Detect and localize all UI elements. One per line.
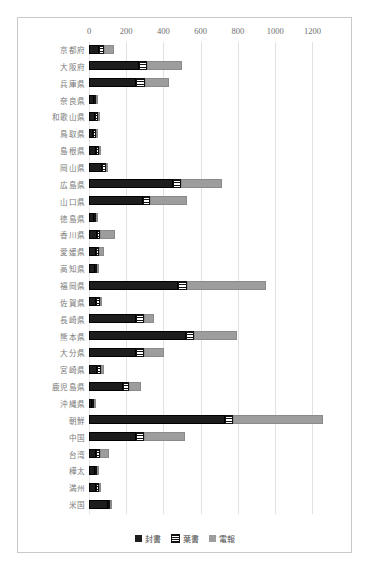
- stacked-bar[interactable]: [89, 264, 99, 273]
- bar-segment-封書[interactable]: [89, 415, 225, 424]
- bar-segment-封書[interactable]: [89, 449, 96, 458]
- bar-segment-封書[interactable]: [89, 281, 178, 290]
- bar-segment-電報[interactable]: [106, 163, 108, 172]
- bar-segment-封書[interactable]: [89, 179, 173, 188]
- chart-bar-row[interactable]: 愛媛県: [89, 244, 331, 259]
- stacked-bar[interactable]: [89, 415, 323, 424]
- chart-bar-row[interactable]: 山口県: [89, 194, 331, 209]
- bar-segment-封書[interactable]: [89, 45, 99, 54]
- chart-bar-row[interactable]: 鹿児島県: [89, 379, 331, 394]
- bar-segment-封書[interactable]: [89, 78, 136, 87]
- bar-segment-電報[interactable]: [147, 61, 182, 70]
- chart-bar-row[interactable]: 大分県: [89, 345, 331, 360]
- bar-segment-封書[interactable]: [89, 230, 97, 239]
- bar-segment-封書[interactable]: [89, 432, 136, 441]
- stacked-bar[interactable]: [89, 163, 108, 172]
- bar-segment-封書[interactable]: [89, 500, 108, 509]
- bar-segment-電報[interactable]: [145, 78, 169, 87]
- bar-segment-電報[interactable]: [100, 230, 115, 239]
- bar-segment-電報[interactable]: [97, 466, 99, 475]
- bar-segment-葉書[interactable]: [225, 415, 233, 424]
- chart-bar-row[interactable]: 兵庫県: [89, 76, 331, 91]
- chart-bar-row[interactable]: 和歌山県: [89, 109, 331, 124]
- bar-segment-封書[interactable]: [89, 348, 136, 357]
- stacked-bar[interactable]: [89, 314, 154, 323]
- stacked-bar[interactable]: [89, 399, 96, 408]
- stacked-bar[interactable]: [89, 95, 98, 104]
- stacked-bar[interactable]: [89, 129, 98, 138]
- chart-bar-row[interactable]: 宮崎県: [89, 362, 331, 377]
- bar-segment-電報[interactable]: [194, 331, 237, 340]
- bar-segment-電報[interactable]: [144, 348, 164, 357]
- bar-segment-電報[interactable]: [94, 399, 96, 408]
- chart-bar-row[interactable]: 奈良県: [89, 93, 331, 108]
- chart-bar-row[interactable]: 米国: [89, 497, 331, 512]
- chart-bar-row[interactable]: 朝鮮: [89, 413, 331, 428]
- bar-segment-葉書[interactable]: [186, 331, 194, 340]
- stacked-bar[interactable]: [89, 61, 182, 70]
- bar-segment-封書[interactable]: [89, 382, 123, 391]
- chart-bar-row[interactable]: 大阪府: [89, 59, 331, 74]
- bar-segment-電報[interactable]: [96, 213, 98, 222]
- stacked-bar[interactable]: [89, 112, 100, 121]
- bar-segment-電報[interactable]: [97, 264, 99, 273]
- stacked-bar[interactable]: [89, 382, 141, 391]
- chart-bar-row[interactable]: 沖縄県: [89, 396, 331, 411]
- chart-bar-row[interactable]: 鳥取県: [89, 126, 331, 141]
- bar-segment-葉書[interactable]: [136, 78, 144, 87]
- bar-segment-電報[interactable]: [100, 449, 108, 458]
- bar-segment-電報[interactable]: [99, 146, 101, 155]
- bar-segment-封書[interactable]: [89, 163, 102, 172]
- bar-segment-電報[interactable]: [144, 314, 154, 323]
- bar-segment-電報[interactable]: [144, 432, 185, 441]
- bar-segment-葉書[interactable]: [178, 281, 186, 290]
- bar-segment-電報[interactable]: [99, 483, 101, 492]
- legend-item-葉書[interactable]: 葉書: [171, 533, 199, 544]
- stacked-bar[interactable]: [89, 213, 98, 222]
- bar-segment-電報[interactable]: [98, 112, 100, 121]
- chart-bar-row[interactable]: 熊本県: [89, 329, 331, 344]
- chart-bar-row[interactable]: 台湾: [89, 447, 331, 462]
- bar-segment-封書[interactable]: [89, 196, 143, 205]
- stacked-bar[interactable]: [89, 247, 104, 256]
- bar-segment-電報[interactable]: [99, 247, 104, 256]
- bar-segment-電報[interactable]: [104, 45, 114, 54]
- stacked-bar[interactable]: [89, 483, 101, 492]
- bar-segment-電報[interactable]: [110, 500, 112, 509]
- bar-segment-電報[interactable]: [150, 196, 186, 205]
- chart-bar-row[interactable]: 高知県: [89, 261, 331, 276]
- bar-segment-葉書[interactable]: [139, 61, 146, 70]
- bar-segment-電報[interactable]: [96, 95, 98, 104]
- stacked-bar[interactable]: [89, 348, 164, 357]
- bar-segment-葉書[interactable]: [136, 432, 144, 441]
- legend-item-封書[interactable]: 封書: [135, 533, 161, 544]
- legend-item-電報[interactable]: 電報: [209, 533, 235, 544]
- chart-bar-row[interactable]: 長崎県: [89, 312, 331, 327]
- bar-segment-葉書[interactable]: [143, 196, 150, 205]
- stacked-bar[interactable]: [89, 297, 102, 306]
- bar-segment-封書[interactable]: [89, 247, 96, 256]
- bar-segment-葉書[interactable]: [173, 179, 181, 188]
- chart-bar-row[interactable]: 島根県: [89, 143, 331, 158]
- bar-segment-封書[interactable]: [89, 61, 139, 70]
- chart-bar-row[interactable]: 岡山県: [89, 160, 331, 175]
- stacked-bar[interactable]: [89, 331, 237, 340]
- chart-bar-row[interactable]: 徳島県: [89, 211, 331, 226]
- stacked-bar[interactable]: [89, 196, 187, 205]
- chart-bar-row[interactable]: 樺太: [89, 463, 331, 478]
- stacked-bar[interactable]: [89, 146, 101, 155]
- bar-segment-葉書[interactable]: [136, 348, 144, 357]
- bar-segment-封書[interactable]: [89, 331, 186, 340]
- stacked-bar[interactable]: [89, 230, 115, 239]
- stacked-bar[interactable]: [89, 78, 169, 87]
- stacked-bar[interactable]: [89, 466, 99, 475]
- bar-segment-電報[interactable]: [129, 382, 141, 391]
- stacked-bar[interactable]: [89, 281, 266, 290]
- bar-segment-電報[interactable]: [233, 415, 322, 424]
- chart-bar-row[interactable]: 満州: [89, 480, 331, 495]
- bar-segment-電報[interactable]: [100, 297, 102, 306]
- bar-segment-電報[interactable]: [181, 179, 222, 188]
- bar-segment-封書[interactable]: [89, 365, 97, 374]
- chart-bar-row[interactable]: 中国: [89, 430, 331, 445]
- stacked-bar[interactable]: [89, 432, 185, 441]
